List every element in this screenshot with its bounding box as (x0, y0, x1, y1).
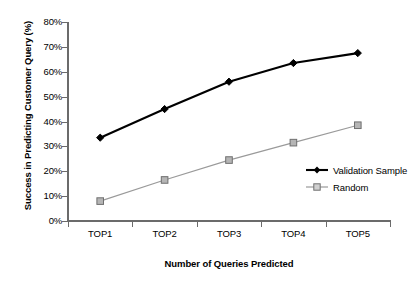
legend-diamond-marker-icon (305, 163, 329, 177)
x-axis-title: Number of Queries Predicted (68, 258, 390, 269)
series-1 (97, 49, 362, 141)
series-line (100, 53, 358, 138)
data-point-marker (97, 198, 104, 205)
data-point-marker (97, 134, 104, 141)
data-point-marker (354, 49, 361, 56)
legend-square-marker-icon (305, 180, 329, 194)
legend-label: Random (333, 182, 368, 193)
series-plot (0, 0, 418, 284)
data-point-marker (226, 157, 233, 164)
data-point-marker (355, 122, 362, 129)
chart-figure: Success in Predicting Customer Query (%)… (0, 0, 418, 284)
data-point-marker (225, 78, 232, 85)
data-point-marker (290, 59, 297, 66)
data-point-marker (161, 177, 168, 184)
legend-label: Validation Sample (333, 165, 407, 176)
data-point-marker (161, 105, 168, 112)
data-point-marker (290, 139, 297, 146)
